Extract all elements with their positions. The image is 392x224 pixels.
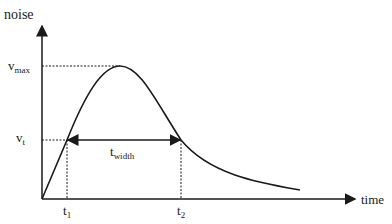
noise-pulse-diagram: noise time vmax vt twidth t1 t2 <box>0 0 392 224</box>
vmax-label: vmax <box>8 58 30 75</box>
y-axis-label: noise <box>4 7 34 22</box>
x-axis-label: time <box>361 192 384 207</box>
t1-label: t1 <box>63 203 71 220</box>
vt-label: vt <box>16 130 26 147</box>
t2-label: t2 <box>177 203 185 220</box>
noise-curve <box>42 66 300 199</box>
t-width-label: twidth <box>110 144 135 161</box>
